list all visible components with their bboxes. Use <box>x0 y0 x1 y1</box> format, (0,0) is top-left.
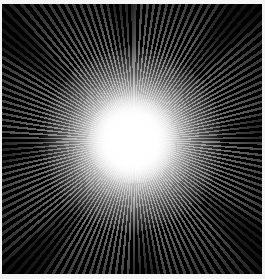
center-core <box>2 4 262 274</box>
starburst-image: Radial starburst of white light rays on … <box>2 4 262 274</box>
